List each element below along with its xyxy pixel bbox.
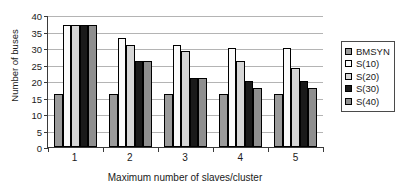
y-tick-mark	[44, 66, 48, 67]
legend-item[interactable]: S(40)	[345, 95, 390, 108]
legend-item[interactable]: BMSYN	[345, 45, 390, 58]
legend-swatch-icon	[345, 48, 352, 55]
x-tick-label: 4	[213, 152, 268, 163]
y-tick-mark	[44, 82, 48, 83]
bar	[283, 48, 292, 147]
y-tick-label: 15	[31, 93, 42, 104]
bar	[219, 94, 228, 147]
bar-groups	[48, 16, 323, 147]
bar	[308, 88, 317, 147]
bar-group	[103, 16, 158, 147]
x-axis-tick-labels: 12345	[47, 152, 323, 163]
bar-group	[158, 16, 213, 147]
bar	[118, 38, 127, 147]
x-tick-label: 5	[268, 152, 323, 163]
bar	[80, 25, 89, 147]
x-tick-label: 3	[157, 152, 212, 163]
legend-swatch-icon	[345, 60, 352, 67]
bar	[143, 61, 152, 147]
y-tick-label: 25	[31, 60, 42, 71]
legend-label: S(40)	[356, 96, 379, 107]
x-tick-label: 2	[102, 152, 157, 163]
y-tick-mark	[44, 49, 48, 50]
bar-group	[213, 16, 268, 147]
bar	[164, 94, 173, 147]
x-axis-label: Maximum number of slaves/cluster	[47, 172, 323, 183]
y-tick-label: 20	[31, 77, 42, 88]
bar	[54, 94, 63, 147]
y-tick-mark	[44, 115, 48, 116]
y-tick-label: 30	[31, 44, 42, 55]
bar	[71, 25, 80, 147]
y-tick-label: 0	[37, 143, 42, 154]
y-axis-label: Number of buses	[9, 6, 20, 126]
y-tick-mark	[44, 16, 48, 17]
x-tick-label: 1	[47, 152, 102, 163]
y-tick-mark	[44, 132, 48, 133]
legend-swatch-icon	[345, 73, 352, 80]
bar	[198, 78, 207, 147]
bar	[126, 45, 135, 147]
bar	[291, 68, 300, 147]
legend-item[interactable]: S(30)	[345, 83, 390, 96]
bar	[88, 25, 97, 147]
plot-area: 0510152025303540	[47, 16, 323, 148]
bar	[253, 88, 262, 147]
bar	[236, 61, 245, 147]
bar	[245, 81, 254, 147]
y-tick-label: 35	[31, 27, 42, 38]
bar	[190, 78, 199, 147]
x-tick-mark	[323, 147, 324, 152]
legend: BMSYNS(10)S(20)S(30)S(40)	[341, 41, 395, 112]
bar-group	[268, 16, 323, 147]
bar-chart-figure: Number of buses 0510152025303540 12345 M…	[0, 0, 418, 196]
bar	[228, 48, 237, 147]
y-tick-label: 40	[31, 11, 42, 22]
legend-label: S(30)	[356, 83, 379, 94]
legend-item[interactable]: S(10)	[345, 58, 390, 71]
y-tick-mark	[44, 33, 48, 34]
legend-swatch-icon	[345, 98, 352, 105]
bar	[173, 45, 182, 147]
legend-label: BMSYN	[356, 46, 390, 57]
legend-label: S(20)	[356, 71, 379, 82]
legend-label: S(10)	[356, 58, 379, 69]
bar	[181, 51, 190, 147]
y-tick-mark	[44, 148, 48, 149]
bar	[274, 94, 283, 147]
bar	[63, 25, 72, 147]
bar	[300, 81, 309, 147]
legend-swatch-icon	[345, 85, 352, 92]
y-tick-label: 5	[37, 126, 42, 137]
legend-item[interactable]: S(20)	[345, 70, 390, 83]
bar	[109, 94, 118, 147]
bar-group	[48, 16, 103, 147]
y-tick-label: 10	[31, 110, 42, 121]
bar	[135, 61, 144, 147]
y-tick-mark	[44, 99, 48, 100]
